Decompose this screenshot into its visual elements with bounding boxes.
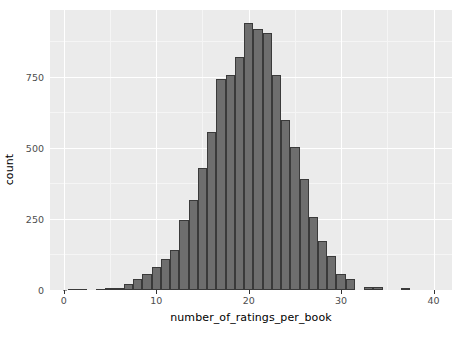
histogram-bar <box>198 168 207 290</box>
histogram-bar <box>216 79 225 290</box>
histogram-bar <box>189 200 198 290</box>
histogram-bar <box>327 256 336 290</box>
x-axis-tick-mark <box>249 290 250 294</box>
x-axis-tick-mark <box>341 290 342 294</box>
histogram-bar <box>133 279 142 290</box>
histogram-bar <box>281 120 290 290</box>
x-axis-tick-label: 10 <box>150 295 162 306</box>
histogram-bar <box>336 274 345 290</box>
histogram-bar <box>318 241 327 290</box>
histogram-bar <box>300 179 309 290</box>
x-axis-tick-label: 0 <box>61 295 67 306</box>
histogram-bar <box>272 75 281 290</box>
histogram-bar <box>179 220 188 290</box>
histogram-bar <box>309 217 318 290</box>
x-axis-tick-mark <box>434 290 435 294</box>
y-axis-tick-labels: 0250500750 <box>18 0 44 339</box>
histogram-bar <box>207 132 216 290</box>
x-axis-tick-label: 40 <box>427 295 439 306</box>
x-axis-tick-mark <box>64 290 65 294</box>
y-axis-title: count <box>0 0 18 339</box>
histogram-bar <box>226 75 235 290</box>
x-axis-tick-mark <box>156 290 157 294</box>
histogram-bar <box>235 57 244 290</box>
histogram-bar <box>253 29 262 290</box>
histogram-bar <box>346 279 355 290</box>
histogram-bar <box>142 274 151 290</box>
histogram-bar <box>161 259 170 290</box>
y-axis-tick-label: 750 <box>26 71 44 82</box>
histogram-bar <box>244 23 253 290</box>
histogram-bars <box>50 10 452 290</box>
y-axis-tick-label: 0 <box>38 285 44 296</box>
x-axis-tick-label: 30 <box>335 295 347 306</box>
x-axis-title: number_of_ratings_per_book <box>50 311 452 324</box>
x-axis-tick-labels: 010203040 <box>50 295 452 309</box>
histogram-bar <box>290 147 299 290</box>
histogram-bar <box>263 33 272 290</box>
histogram-bar <box>170 250 179 290</box>
y-axis-tick-label: 250 <box>26 213 44 224</box>
histogram-bar <box>152 267 161 290</box>
x-axis-tick-label: 20 <box>243 295 255 306</box>
y-axis-tick-label: 500 <box>26 142 44 153</box>
histogram-plot: count 0250500750 010203040 number_of_rat… <box>0 0 468 339</box>
plot-panel <box>50 10 452 290</box>
